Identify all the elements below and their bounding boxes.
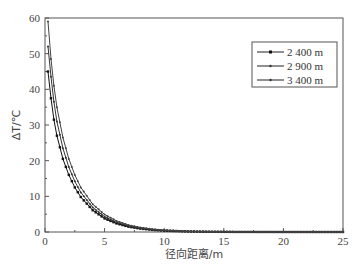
data-marker [139,227,141,229]
data-marker [47,70,49,72]
x-tick-label: 0 [42,235,48,247]
data-marker [336,231,338,233]
data-marker [104,214,106,216]
data-marker [101,213,103,215]
data-marker [113,218,115,220]
data-marker [142,227,144,229]
x-tick-label: 10 [159,235,171,247]
data-marker [50,97,52,99]
data-marker [86,199,88,201]
data-marker [127,224,129,226]
data-marker [208,231,210,233]
data-marker [217,231,219,233]
data-marker [56,106,58,108]
data-marker [59,134,61,136]
x-tick-label: 20 [278,235,290,247]
data-marker [270,231,272,233]
data-marker [65,157,67,159]
data-marker [86,202,88,204]
data-marker [276,231,278,233]
legend-marker [269,51,272,54]
data-marker [89,199,91,201]
data-marker [104,216,106,218]
data-marker [303,231,305,233]
data-marker [68,174,70,176]
data-marker [321,231,323,233]
data-marker [184,230,186,232]
data-marker [202,231,204,233]
data-marker [77,180,79,182]
data-marker [330,231,332,233]
data-marker [65,147,67,149]
data-marker [241,231,243,233]
data-marker [95,206,97,208]
data-marker [83,199,85,201]
data-marker [235,231,237,233]
data-marker [77,191,79,193]
data-marker [339,231,341,233]
data-marker [288,231,290,233]
data-marker [86,195,88,197]
y-tick-label: 10 [29,190,41,202]
legend-label: 2 400 m [287,46,324,58]
data-marker [211,231,213,233]
line-chart: 05101520250102030405060 2 400 m2 900 m3 … [0,0,361,275]
data-marker [62,147,64,149]
data-marker [71,180,73,182]
data-marker [324,231,326,233]
data-marker [300,231,302,233]
data-marker [62,136,64,138]
data-marker [83,195,85,197]
y-tick-label: 40 [29,83,41,95]
data-marker [172,230,174,232]
data-marker [244,231,246,233]
data-marker [89,203,91,205]
y-axis-label: ΔT/℃ [10,110,23,140]
data-marker [53,85,55,87]
data-marker [89,206,91,208]
data-marker [297,231,299,233]
y-tick-label: 60 [29,12,41,24]
data-marker [190,230,192,232]
data-marker [196,230,198,232]
legend-label: 2 900 m [287,60,324,72]
data-marker [238,231,240,233]
data-marker [148,228,150,230]
data-marker [220,231,222,233]
data-marker [312,231,314,233]
data-marker [133,225,135,227]
data-marker [163,229,165,231]
data-marker [318,231,320,233]
data-marker [306,231,308,233]
data-marker [95,209,97,211]
data-marker [214,231,216,233]
data-marker [145,227,147,229]
data-marker [47,21,49,23]
data-marker [262,231,264,233]
data-marker [80,186,82,188]
data-marker [199,231,201,233]
legend-marker [269,65,271,67]
x-tick-label: 15 [218,235,230,247]
data-marker [59,121,61,123]
data-marker [91,209,93,211]
data-marker [315,231,317,233]
data-marker [250,231,252,233]
data-marker [166,229,168,231]
x-tick-label: 25 [338,235,350,247]
data-marker [291,231,293,233]
data-marker [124,223,126,225]
data-marker [116,220,118,222]
data-marker [107,217,109,219]
data-marker [253,231,255,233]
data-marker [327,231,329,233]
data-marker [333,231,335,233]
data-marker [285,231,287,233]
data-marker [342,231,344,233]
y-tick-label: 20 [29,155,41,167]
data-marker [56,135,58,137]
legend-label: 3 400 m [287,74,324,86]
data-marker [268,231,270,233]
data-marker [193,230,195,232]
data-marker [110,217,112,219]
